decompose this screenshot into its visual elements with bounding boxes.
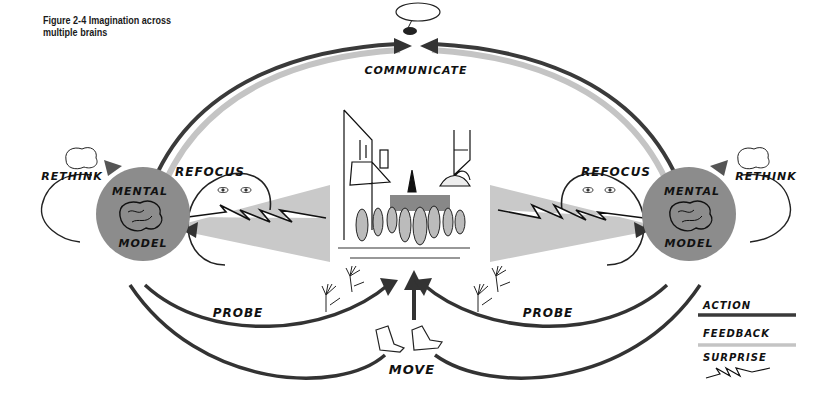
legend-surprise-zigzag — [706, 368, 770, 378]
probe-arc-left — [145, 278, 398, 326]
perception-wedge-right — [490, 185, 664, 262]
brain-icon — [120, 201, 162, 230]
label-probe-right: PROBE — [523, 306, 574, 320]
label-communicate: COMMUNICATE — [364, 64, 467, 77]
arrowhead-right-in — [420, 38, 438, 54]
legend-label-feedback: FEEDBACK — [703, 328, 770, 339]
diagram-canvas: COMMUNICATE REFOCUS REFOCUS MENTAL MODEL… — [0, 0, 832, 401]
legend-label-surprise: SURPRISE — [703, 352, 767, 363]
label-rethink-left: RETHINK — [41, 170, 103, 183]
label-mental-right: MENTAL — [664, 185, 720, 198]
legend: ACTION FEEDBACK SURPRISE — [698, 300, 796, 378]
speech-bubble-mouth-icon — [396, 3, 440, 35]
label-move: MOVE — [389, 362, 435, 377]
street-scene-illustration — [338, 110, 470, 258]
label-mental-left: MENTAL — [112, 185, 168, 198]
action-arrows-into-scene — [404, 270, 424, 320]
mental-model-left: MENTAL MODEL — [96, 167, 190, 261]
perception-wedge-left — [168, 185, 330, 262]
brain-icon — [670, 201, 712, 230]
label-probe-left: PROBE — [213, 306, 264, 320]
label-refocus-right: REFOCUS — [581, 165, 651, 179]
sneakers-icon — [376, 326, 442, 352]
brain-icon — [738, 148, 769, 169]
mental-model-right: MENTAL MODEL — [642, 167, 736, 261]
label-model-left: MODEL — [119, 237, 168, 250]
legend-label-action: ACTION — [702, 300, 751, 311]
arrowhead-left-in — [394, 38, 412, 54]
move-arc-left — [130, 285, 385, 378]
brain-icon — [66, 148, 97, 169]
label-model-right: MODEL — [665, 237, 714, 250]
label-rethink-right: RETHINK — [735, 170, 797, 183]
move-arc-right — [435, 285, 700, 378]
label-refocus-left: REFOCUS — [175, 165, 245, 179]
